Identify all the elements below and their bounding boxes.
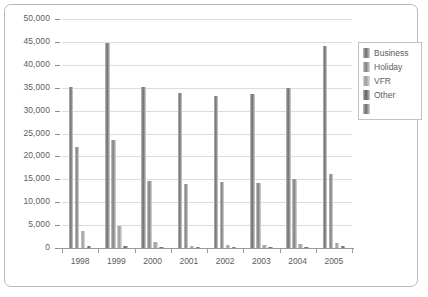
y-axis-label: 5,000 [0,219,50,229]
y-axis-tick [55,134,60,135]
x-axis-category-label: 2004 [280,256,316,266]
bar-other-2002 [232,247,237,249]
y-axis-tick [55,202,60,203]
x-axis-category-label: 2002 [207,256,243,266]
legend-swatch-icon [363,104,370,114]
y-axis-tick [55,156,60,157]
legend-item[interactable]: Business [363,46,421,60]
legend-item[interactable] [363,102,421,116]
legend-item-label: VFR [374,76,391,86]
legend-item-label: Business [374,48,409,58]
y-axis-tick [55,111,60,112]
x-axis-category-label: 2005 [316,256,352,266]
bar-holiday-1999 [111,140,116,248]
x-axis-tick [352,248,353,253]
y-axis-tick [55,19,60,20]
y-axis-label: 40,000 [0,59,50,69]
bar-vfr-2002 [226,245,231,248]
y-axis-label: 0 [0,242,50,252]
bar-business-2004 [286,88,291,248]
x-axis-line [58,248,354,249]
bar-other-1998 [87,246,92,248]
legend-item[interactable]: Other [363,88,421,102]
bar-holiday-2005 [329,174,334,248]
bar-business-2002 [214,96,219,248]
bar-holiday-2004 [292,179,297,248]
legend-swatch-icon [363,90,370,100]
bar-other-2001 [196,247,201,249]
x-axis-tick [316,248,317,253]
bar-business-2000 [141,87,146,248]
x-axis-category-label: 2001 [171,256,207,266]
bar-other-2004 [304,247,309,249]
y-axis-label: 45,000 [0,36,50,46]
bar-vfr-2005 [335,243,340,248]
legend-swatch-icon [363,76,370,86]
bar-holiday-2003 [256,183,261,248]
bar-other-2000 [159,247,164,249]
bar-holiday-2000 [147,181,152,248]
bar-business-1998 [69,87,74,248]
bar-business-2003 [250,94,255,248]
bar-holiday-2002 [220,182,225,248]
y-axis-label: 25,000 [0,128,50,138]
x-axis-tick [135,248,136,253]
y-axis-tick [55,225,60,226]
y-axis-label: 10,000 [0,196,50,206]
bar-other-2003 [268,247,273,249]
x-axis-tick [243,248,244,253]
bar-vfr-1998 [81,231,86,248]
legend-swatch-icon [363,48,370,58]
y-axis-tick [55,65,60,66]
bar-business-1999 [105,43,110,248]
y-axis-label: 30,000 [0,105,50,115]
bar-vfr-1999 [117,226,122,248]
bar-vfr-2000 [153,242,158,248]
legend-item-label: Other [374,90,395,100]
x-axis-tick [62,248,63,253]
x-axis-category-label: 1998 [62,256,98,266]
bar-vfr-2004 [298,244,303,248]
y-axis-label: 35,000 [0,82,50,92]
x-axis-category-label: 2003 [243,256,279,266]
y-axis-label: 20,000 [0,150,50,160]
bar-vfr-2003 [262,245,267,248]
bar-holiday-1998 [75,147,80,248]
y-axis-tick [55,179,60,180]
bar-holiday-2001 [184,184,189,248]
x-axis-category-label: 1999 [98,256,134,266]
legend-item[interactable]: VFR [363,74,421,88]
bar-business-2001 [178,93,183,248]
chart-legend: BusinessHolidayVFROther [358,42,422,120]
bar-other-2005 [341,246,346,248]
y-axis-tick [55,42,60,43]
x-axis-tick [207,248,208,253]
x-axis-tick [98,248,99,253]
x-axis-tick [171,248,172,253]
bar-business-2005 [323,46,328,248]
x-axis-tick [280,248,281,253]
y-axis-tick [55,88,60,89]
legend-swatch-icon [363,62,370,72]
bar-other-1999 [123,246,128,248]
y-axis-label: 15,000 [0,173,50,183]
x-axis-category-label: 2000 [135,256,171,266]
gridline [62,19,352,20]
bar-vfr-2001 [190,246,195,248]
legend-item[interactable]: Holiday [363,60,421,74]
y-axis-label: 50,000 [0,13,50,23]
legend-item-label: Holiday [374,62,402,72]
